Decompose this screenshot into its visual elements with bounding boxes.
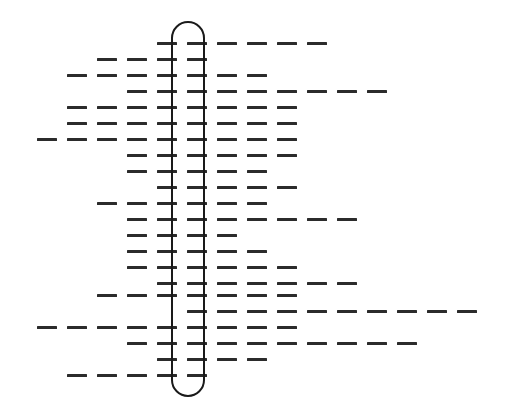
dash-segment — [307, 310, 327, 313]
dash-segment — [157, 122, 177, 125]
dash-segment — [277, 310, 297, 313]
dash-segment — [307, 342, 327, 345]
dash-segment — [157, 342, 177, 345]
dash-segment — [217, 234, 237, 237]
figure-root — [0, 0, 506, 417]
dash-segment — [277, 218, 297, 221]
dash-segment — [157, 154, 177, 157]
dash-segment — [127, 202, 147, 205]
dash-segment — [187, 138, 207, 141]
dash-segment — [217, 74, 237, 77]
dash-segment — [307, 42, 327, 45]
dash-segment — [127, 122, 147, 125]
dash-segment — [67, 374, 87, 377]
dash-segment — [307, 218, 327, 221]
dash-segment — [277, 294, 297, 297]
dash-segment — [217, 250, 237, 253]
dash-segment — [277, 138, 297, 141]
dash-segment — [277, 282, 297, 285]
dash-segment — [187, 42, 207, 45]
dash-segment — [337, 218, 357, 221]
dash-segment — [427, 310, 447, 313]
dash-segment — [157, 326, 177, 329]
dash-segment — [217, 90, 237, 93]
dash-segment — [187, 266, 207, 269]
dash-segment — [157, 58, 177, 61]
dash-segment — [127, 342, 147, 345]
dash-segment — [157, 218, 177, 221]
dash-segment — [367, 342, 387, 345]
dash-segment — [67, 106, 87, 109]
dash-segment — [217, 342, 237, 345]
dash-segment — [247, 310, 267, 313]
dash-row-layer — [0, 0, 506, 417]
dash-segment — [337, 282, 357, 285]
dash-segment — [217, 218, 237, 221]
dash-segment — [157, 106, 177, 109]
dash-segment — [247, 74, 267, 77]
dash-segment — [157, 266, 177, 269]
dash-segment — [97, 138, 117, 141]
dash-segment — [397, 310, 417, 313]
dash-segment — [307, 90, 327, 93]
dash-segment — [187, 358, 207, 361]
dash-segment — [247, 342, 267, 345]
dash-segment — [217, 282, 237, 285]
dash-segment — [127, 58, 147, 61]
dash-segment — [67, 138, 87, 141]
dash-segment — [187, 282, 207, 285]
dash-segment — [157, 294, 177, 297]
dash-segment — [187, 294, 207, 297]
dash-segment — [247, 90, 267, 93]
dash-segment — [217, 358, 237, 361]
dash-segment — [277, 106, 297, 109]
dash-segment — [277, 186, 297, 189]
dash-segment — [127, 234, 147, 237]
dash-segment — [67, 122, 87, 125]
dash-segment — [247, 326, 267, 329]
dash-segment — [127, 374, 147, 377]
dash-segment — [97, 326, 117, 329]
dash-segment — [187, 374, 207, 377]
dash-segment — [217, 42, 237, 45]
dash-segment — [127, 106, 147, 109]
dash-segment — [247, 186, 267, 189]
dash-segment — [247, 154, 267, 157]
dash-segment — [187, 342, 207, 345]
dash-segment — [97, 122, 117, 125]
dash-segment — [187, 186, 207, 189]
dash-segment — [157, 186, 177, 189]
dash-segment — [397, 342, 417, 345]
dash-segment — [97, 202, 117, 205]
dash-segment — [187, 170, 207, 173]
dash-segment — [247, 106, 267, 109]
dash-segment — [187, 90, 207, 93]
dash-segment — [37, 326, 57, 329]
dash-segment — [247, 202, 267, 205]
dash-segment — [37, 138, 57, 141]
dash-segment — [157, 374, 177, 377]
dash-segment — [127, 138, 147, 141]
dash-segment — [97, 74, 117, 77]
dash-segment — [337, 90, 357, 93]
dash-segment — [217, 170, 237, 173]
dash-segment — [217, 326, 237, 329]
dash-segment — [127, 266, 147, 269]
dash-segment — [127, 250, 147, 253]
dash-segment — [67, 326, 87, 329]
dash-segment — [127, 170, 147, 173]
dash-segment — [247, 122, 267, 125]
dash-segment — [157, 358, 177, 361]
dash-segment — [217, 310, 237, 313]
dash-segment — [97, 294, 117, 297]
dash-segment — [127, 74, 147, 77]
dash-segment — [247, 138, 267, 141]
dash-segment — [127, 294, 147, 297]
dash-segment — [67, 74, 87, 77]
dash-segment — [307, 282, 327, 285]
dash-segment — [277, 326, 297, 329]
dash-segment — [97, 106, 117, 109]
dash-segment — [277, 342, 297, 345]
dash-segment — [157, 42, 177, 45]
dash-segment — [157, 202, 177, 205]
